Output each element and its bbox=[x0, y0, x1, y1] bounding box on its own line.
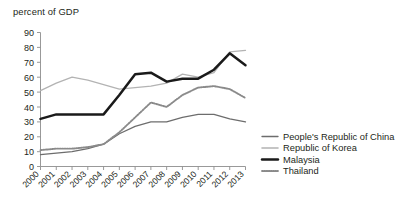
x-tick-label: 2003 bbox=[68, 169, 89, 190]
x-tick-label: 2013 bbox=[225, 169, 246, 190]
y-tick-label: 90 bbox=[24, 28, 34, 38]
x-tick-label: 2000 bbox=[20, 169, 41, 190]
x-tick-label: 2005 bbox=[99, 169, 120, 190]
x-tick-label: 2008 bbox=[146, 169, 167, 190]
y-tick-label: 10 bbox=[24, 147, 34, 157]
y-tick-label: 70 bbox=[24, 58, 34, 68]
x-tick-label: 2012 bbox=[210, 169, 231, 190]
y-tick-marks bbox=[37, 33, 41, 167]
chart-container: percent of GDP 90 80 70 60 50 40 30 bbox=[0, 0, 416, 211]
legend-label-malaysia: Malaysia bbox=[283, 155, 321, 165]
x-tick-label: 2006 bbox=[115, 169, 136, 190]
y-tick-label: 60 bbox=[24, 73, 34, 83]
x-tick-label: 2004 bbox=[83, 169, 104, 190]
series-line-thailand bbox=[41, 86, 246, 150]
y-tick-label: 50 bbox=[24, 88, 34, 98]
legend-label-china: People's Republic of China bbox=[283, 132, 395, 142]
x-tick-label: 2001 bbox=[36, 169, 57, 190]
y-tick-label: 40 bbox=[24, 103, 34, 113]
y-tick-label: 80 bbox=[24, 43, 34, 53]
x-tick-label: 2009 bbox=[162, 169, 183, 190]
y-tick-label: 20 bbox=[24, 132, 34, 142]
x-axis-labels: 2000200120022003200420052006200720082009… bbox=[20, 169, 246, 190]
legend-label-thailand: Thailand bbox=[283, 166, 319, 176]
y-axis-labels: 90 80 70 60 50 40 30 20 10 0 bbox=[24, 28, 34, 172]
x-tick-label: 2010 bbox=[178, 169, 199, 190]
data-series-group bbox=[41, 50, 246, 154]
line-chart-plot: 90 80 70 60 50 40 30 20 10 0 20002001200… bbox=[0, 0, 416, 211]
x-tick-label: 2011 bbox=[194, 169, 214, 189]
legend-label-korea: Republic of Korea bbox=[283, 143, 358, 153]
chart-legend: People's Republic of China Republic of K… bbox=[262, 132, 395, 177]
y-tick-label: 30 bbox=[24, 117, 34, 127]
x-tick-label: 2002 bbox=[52, 169, 73, 190]
x-tick-label: 2007 bbox=[131, 169, 152, 190]
